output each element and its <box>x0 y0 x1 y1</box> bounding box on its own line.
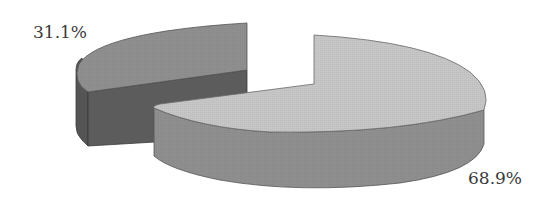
slice-label-small: 31.1% <box>33 22 87 42</box>
slice-label-large: 68.9% <box>468 168 522 188</box>
